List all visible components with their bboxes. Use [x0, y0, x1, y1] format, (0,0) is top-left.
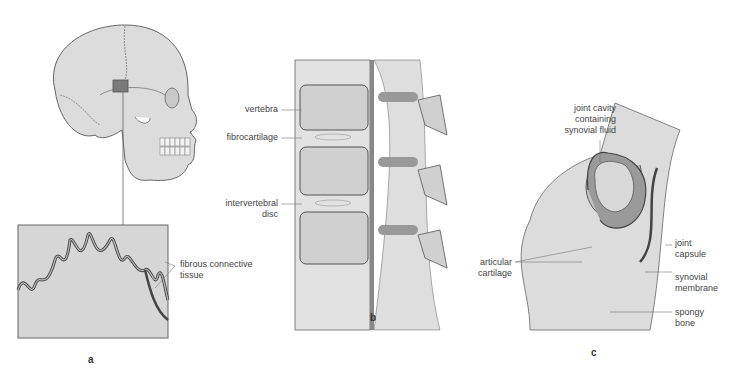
- label-intervertebral-disc: intervertebral disc: [210, 198, 278, 220]
- label-line: articular: [460, 257, 512, 268]
- label-line: synovial: [675, 272, 718, 283]
- label-vertebra: vertebra: [220, 104, 278, 115]
- label-fibrous-connective-tissue: fibrous connective tissue: [180, 259, 253, 281]
- panel-letter-b: b: [370, 312, 376, 323]
- label-line: capsule: [675, 249, 706, 260]
- label-line: fibrous connective: [180, 259, 253, 270]
- label-synovial-membrane: synovial membrane: [675, 272, 718, 294]
- label-line: synovial fluid: [530, 125, 616, 136]
- label-line: bone: [675, 318, 704, 329]
- label-joint-cavity: joint cavity containing synovial fluid: [530, 103, 616, 136]
- label-line: disc: [210, 209, 278, 220]
- label-line: containing: [530, 114, 616, 125]
- label-spongy-bone: spongy bone: [675, 307, 704, 329]
- label-line: spongy: [675, 307, 704, 318]
- label-joint-capsule: joint capsule: [675, 238, 706, 260]
- panel-letter-c: c: [591, 347, 597, 358]
- label-line: joint cavity: [530, 103, 616, 114]
- label-articular-cartilage: articular cartilage: [460, 257, 512, 279]
- label-line: intervertebral: [210, 198, 278, 209]
- panel-letter-a: a: [88, 354, 94, 365]
- suture-inset: [18, 225, 175, 338]
- label-line: tissue: [180, 270, 253, 281]
- skull-illustration: [53, 25, 196, 225]
- label-fibrocartilage: fibrocartilage: [210, 132, 278, 143]
- label-line: joint: [675, 238, 706, 249]
- spine-illustration: [281, 60, 447, 330]
- suture-highlight: [113, 80, 128, 92]
- label-line: membrane: [675, 283, 718, 294]
- label-line: cartilage: [460, 268, 512, 279]
- joint-illustration: [515, 103, 680, 330]
